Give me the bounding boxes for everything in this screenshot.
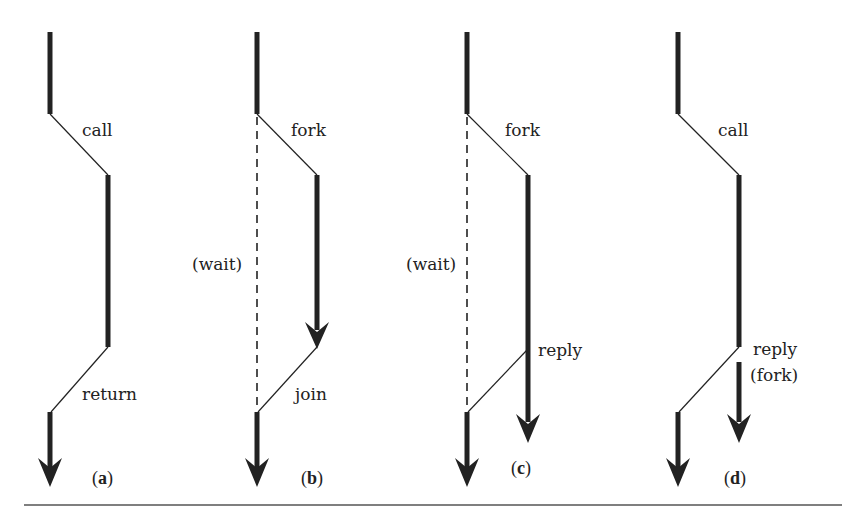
wait-label: (wait) xyxy=(192,254,242,274)
call-label: call xyxy=(82,120,113,140)
return-label: return xyxy=(82,384,137,404)
panel-a: call return (a) xyxy=(38,32,137,489)
panel-d: call reply (fork) (d) xyxy=(666,32,798,489)
panel-caption: (b) xyxy=(301,468,323,489)
call-label: call xyxy=(718,120,749,140)
fork-note-label: (fork) xyxy=(750,365,798,385)
reply-label: reply xyxy=(538,340,583,360)
reply-label: reply xyxy=(753,339,798,359)
join-label: join xyxy=(293,384,327,404)
reply-transfer-line xyxy=(679,347,739,412)
fork-label: fork xyxy=(291,120,327,140)
panel-c: fork (wait) reply (c) xyxy=(406,32,583,487)
control-flow-diagram: call return (a) fork (wait) join (b) for… xyxy=(0,0,842,507)
panel-b: fork (wait) join (b) xyxy=(192,32,329,489)
panel-caption: (d) xyxy=(724,468,746,489)
panel-caption: (a) xyxy=(92,468,113,489)
wait-label: (wait) xyxy=(406,254,456,274)
reply-transfer-line xyxy=(468,350,527,412)
panel-caption: (c) xyxy=(511,458,531,479)
fork-label: fork xyxy=(505,120,541,140)
